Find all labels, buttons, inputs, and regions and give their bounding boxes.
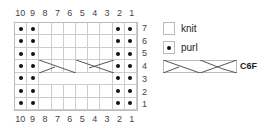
col-num: 10 [14,113,26,125]
legend-knit-label: knit [181,23,197,34]
knit-cell [88,48,100,60]
purl-cell [15,60,27,72]
purl-cell [113,60,125,72]
col-num: 6 [64,7,76,19]
knit-cell [52,98,64,110]
purl-cell [15,98,27,110]
knit-cell [64,35,76,47]
col-num: 1 [126,7,138,19]
column-numbers-top: 10 9 8 7 6 5 4 3 2 1 [14,7,138,19]
knit-cell [100,85,112,97]
knit-cell [88,35,100,47]
row-num: 7 [142,22,147,35]
column-numbers-bottom: 10 9 8 7 6 5 4 3 2 1 [14,113,138,125]
knit-cell [52,35,64,47]
row-num: 2 [142,86,147,99]
legend-knit-symbol [163,22,175,35]
col-num: 2 [113,7,125,19]
purl-cell [27,48,39,60]
row-numbers: 7 6 5 4 3 2 1 [142,22,147,111]
col-num: 8 [39,113,51,125]
cable-c6f-symbol [39,60,114,73]
knit-cell [76,23,88,35]
purl-cell [125,73,137,85]
purl-cell [125,98,137,110]
knit-cell [64,98,76,110]
knit-cell [64,48,76,60]
knit-cell [100,98,112,110]
col-num: 9 [26,113,38,125]
purl-cell [125,23,137,35]
purl-cell [15,23,27,35]
legend-purl-label: purl [181,42,198,53]
knit-cell [100,23,112,35]
knit-cell [88,85,100,97]
knit-cell [39,98,51,110]
knit-cell [88,98,100,110]
purl-cell [113,23,125,35]
row-num: 4 [142,60,147,73]
knit-cell [88,23,100,35]
knit-cell [52,48,64,60]
col-num: 3 [101,113,113,125]
col-num: 3 [101,7,113,19]
col-num: 10 [14,7,26,19]
knit-cell [39,73,51,85]
knit-cell [76,35,88,47]
purl-cell [113,73,125,85]
legend-cable-label: C6F [240,61,257,71]
knit-cell [39,23,51,35]
purl-cell [113,85,125,97]
knit-cell [76,85,88,97]
knit-cell [52,73,64,85]
col-num: 9 [26,7,38,19]
purl-cell [15,35,27,47]
col-num: 1 [126,113,138,125]
row-num: 5 [142,47,147,60]
col-num: 5 [76,7,88,19]
knit-cell [64,23,76,35]
purl-cell [27,73,39,85]
col-num: 5 [76,113,88,125]
legend-cable-symbol [163,60,237,73]
knit-cell [100,73,112,85]
knit-cell [88,73,100,85]
col-num: 7 [51,113,63,125]
purl-cell [27,85,39,97]
purl-cell [27,98,39,110]
knit-cell [100,35,112,47]
row-num: 1 [142,98,147,111]
knit-cell [39,85,51,97]
row-num: 6 [142,35,147,48]
knit-cell [39,35,51,47]
knit-cell [52,23,64,35]
purl-cell [125,85,137,97]
col-num: 2 [113,113,125,125]
col-num: 8 [39,7,51,19]
col-num: 6 [64,113,76,125]
knit-cell [76,48,88,60]
col-num: 4 [88,113,100,125]
knit-cell [39,48,51,60]
purl-cell [125,48,137,60]
row-num: 3 [142,73,147,86]
purl-cell [113,35,125,47]
purl-cell [113,48,125,60]
knit-cell [64,73,76,85]
knit-cell [76,73,88,85]
legend-purl-symbol [163,41,175,54]
knit-cell [76,98,88,110]
purl-cell [27,60,39,72]
purl-cell [27,23,39,35]
purl-cell [113,98,125,110]
purl-cell [27,35,39,47]
purl-cell [15,48,27,60]
col-num: 7 [51,7,63,19]
purl-cell [15,73,27,85]
purl-cell [125,35,137,47]
purl-cell [125,60,137,72]
knit-cell [100,48,112,60]
col-num: 4 [88,7,100,19]
purl-cell [15,85,27,97]
knit-cell [52,85,64,97]
